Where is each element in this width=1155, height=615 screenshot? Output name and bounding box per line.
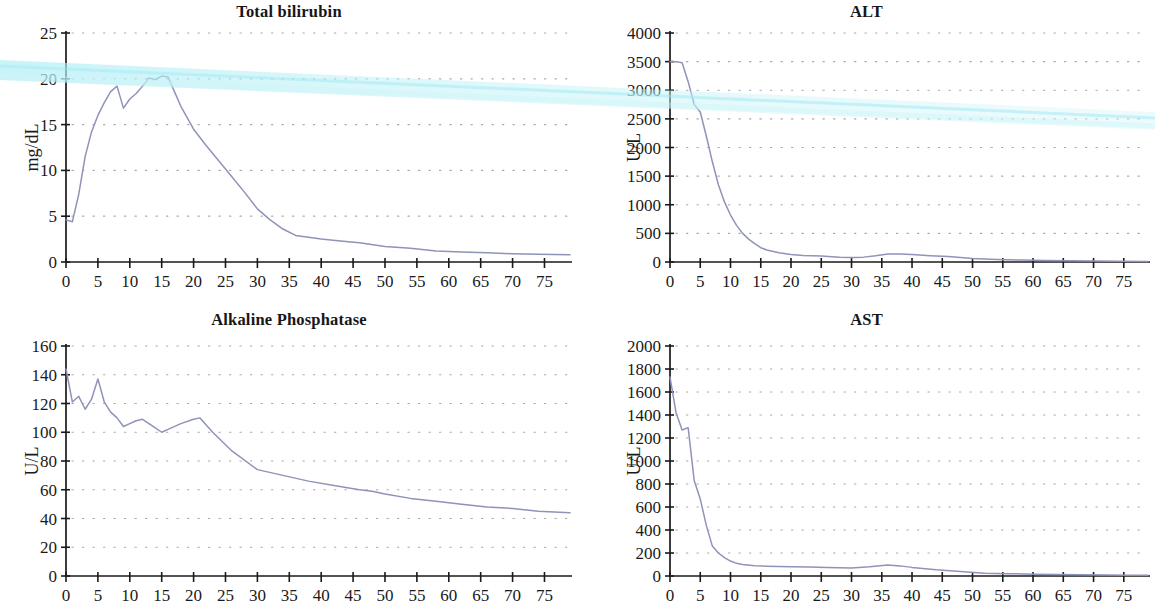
svg-text:45: 45 (345, 586, 362, 605)
svg-text:20: 20 (40, 70, 57, 89)
svg-text:1000: 1000 (627, 196, 661, 215)
svg-text:45: 45 (345, 272, 362, 291)
chart-total-bilirubin: 0510152025051015202530354045505560657075… (0, 0, 578, 310)
svg-text:0: 0 (62, 272, 71, 291)
svg-text:0: 0 (653, 253, 662, 272)
svg-text:75: 75 (536, 272, 553, 291)
panel-alkaline-phosphatase: Alkaline Phosphatase 0204060801001201401… (0, 308, 578, 615)
svg-text:60: 60 (1025, 586, 1042, 605)
svg-text:55: 55 (994, 272, 1011, 291)
svg-text:25: 25 (217, 586, 234, 605)
svg-text:10: 10 (40, 161, 57, 180)
svg-text:50: 50 (964, 586, 981, 605)
svg-text:10: 10 (121, 272, 138, 291)
svg-text:5: 5 (94, 586, 103, 605)
svg-text:U/L: U/L (22, 447, 42, 476)
svg-text:1200: 1200 (627, 429, 661, 448)
svg-text:35: 35 (281, 586, 298, 605)
svg-text:65: 65 (472, 586, 489, 605)
svg-text:20: 20 (185, 586, 202, 605)
svg-text:2500: 2500 (627, 110, 661, 129)
svg-text:800: 800 (636, 475, 662, 494)
svg-text:mg/dL: mg/dL (22, 124, 42, 172)
svg-text:400: 400 (636, 521, 662, 540)
svg-text:600: 600 (636, 498, 662, 517)
svg-text:5: 5 (696, 272, 705, 291)
svg-text:4000: 4000 (627, 24, 661, 43)
svg-text:60: 60 (440, 272, 457, 291)
svg-text:25: 25 (40, 24, 57, 43)
svg-text:45: 45 (934, 272, 951, 291)
svg-text:20: 20 (40, 538, 57, 557)
svg-text:40: 40 (40, 510, 57, 529)
svg-text:70: 70 (504, 272, 521, 291)
svg-text:30: 30 (843, 272, 860, 291)
svg-text:70: 70 (1085, 586, 1102, 605)
svg-text:0: 0 (49, 567, 58, 586)
svg-text:65: 65 (472, 272, 489, 291)
svg-text:U/L: U/L (624, 133, 644, 162)
svg-text:0: 0 (62, 586, 71, 605)
svg-text:65: 65 (1055, 272, 1072, 291)
svg-text:1500: 1500 (627, 167, 661, 186)
svg-text:3500: 3500 (627, 53, 661, 72)
svg-text:40: 40 (904, 586, 921, 605)
svg-text:U/L: U/L (624, 447, 644, 476)
svg-text:5: 5 (94, 272, 103, 291)
panel-ast: AST 020040060080010001200140016001800200… (578, 308, 1155, 615)
chart-alkaline-phosphatase: 0204060801001201401600510152025303540455… (0, 308, 578, 615)
lab-values-figure-grid: Total bilirubin 051015202505101520253035… (0, 0, 1155, 615)
svg-text:80: 80 (40, 452, 57, 471)
svg-text:140: 140 (32, 366, 58, 385)
panel-total-bilirubin: Total bilirubin 051015202505101520253035… (0, 0, 578, 310)
svg-text:30: 30 (843, 586, 860, 605)
svg-text:0: 0 (49, 253, 58, 272)
svg-text:30: 30 (249, 586, 266, 605)
svg-text:25: 25 (813, 272, 830, 291)
svg-text:200: 200 (636, 544, 662, 563)
chart-alt: 0500100015002000250030003500400005101520… (578, 0, 1155, 310)
svg-text:10: 10 (722, 272, 739, 291)
svg-text:500: 500 (636, 224, 662, 243)
svg-text:100: 100 (32, 423, 58, 442)
svg-text:70: 70 (504, 586, 521, 605)
panel-alt: ALT 050010001500200025003000350040000510… (578, 0, 1155, 310)
svg-text:3000: 3000 (627, 81, 661, 100)
svg-text:0: 0 (666, 586, 675, 605)
svg-text:20: 20 (185, 272, 202, 291)
svg-text:1400: 1400 (627, 406, 661, 425)
svg-text:70: 70 (1085, 272, 1102, 291)
svg-text:35: 35 (873, 586, 890, 605)
svg-text:50: 50 (964, 272, 981, 291)
svg-text:15: 15 (153, 586, 170, 605)
chart-ast: 0200400600800100012001400160018002000051… (578, 308, 1155, 615)
svg-text:2000: 2000 (627, 337, 661, 356)
svg-text:50: 50 (376, 586, 393, 605)
svg-text:35: 35 (281, 272, 298, 291)
svg-text:35: 35 (873, 272, 890, 291)
svg-text:20: 20 (783, 586, 800, 605)
svg-text:15: 15 (153, 272, 170, 291)
svg-text:25: 25 (217, 272, 234, 291)
svg-text:60: 60 (440, 586, 457, 605)
svg-text:15: 15 (40, 116, 57, 135)
svg-text:25: 25 (813, 586, 830, 605)
svg-text:15: 15 (752, 586, 769, 605)
svg-text:15: 15 (752, 272, 769, 291)
svg-text:75: 75 (536, 586, 553, 605)
svg-text:60: 60 (40, 481, 57, 500)
svg-text:1800: 1800 (627, 360, 661, 379)
svg-text:60: 60 (1025, 272, 1042, 291)
svg-text:0: 0 (653, 567, 662, 586)
svg-text:20: 20 (783, 272, 800, 291)
svg-text:55: 55 (408, 272, 425, 291)
svg-text:10: 10 (121, 586, 138, 605)
svg-text:55: 55 (994, 586, 1011, 605)
svg-text:50: 50 (376, 272, 393, 291)
svg-text:65: 65 (1055, 586, 1072, 605)
svg-text:5: 5 (49, 207, 58, 226)
svg-text:40: 40 (313, 586, 330, 605)
svg-text:75: 75 (1115, 586, 1132, 605)
svg-text:75: 75 (1115, 272, 1132, 291)
svg-text:0: 0 (666, 272, 675, 291)
